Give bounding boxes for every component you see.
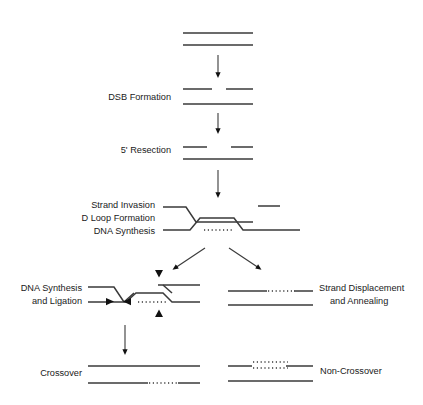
step-dsb-formation (183, 89, 253, 104)
label-crossover: Crossover (40, 368, 82, 378)
step-resection (183, 147, 253, 159)
new-dna-non-crossover (253, 362, 288, 368)
arrow-branch-left (175, 248, 205, 268)
resolution-arrow-top (155, 270, 163, 278)
figure-canvas: DSB Formation 5' Resection Strand Invasi… (0, 0, 423, 405)
resolution-arrow-left (106, 298, 114, 305)
label-strand-displacement-1: Strand Displacement (319, 283, 405, 293)
step-synthesis-ligation (88, 285, 200, 302)
arrow-branch-right (229, 248, 259, 268)
pathway-diagram: DSB Formation 5' Resection Strand Invasi… (0, 0, 423, 405)
label-dsb-formation: DSB Formation (108, 92, 171, 102)
label-synthesis-ligation-2: and Ligation (32, 296, 82, 306)
step-intact-duplex (183, 33, 253, 45)
label-strand-invasion: Strand Invasion (91, 200, 155, 210)
label-strand-displacement-2: and Annealing (330, 296, 388, 306)
step-crossover (88, 366, 200, 383)
label-non-crossover: Non-Crossover (320, 366, 382, 376)
label-dna-synthesis: DNA Synthesis (94, 226, 156, 236)
resolution-arrow-bottom (155, 310, 163, 318)
step-strand-invasion (163, 206, 300, 230)
step-non-crossover (228, 366, 313, 381)
step-strand-displacement (228, 291, 313, 305)
label-d-loop-formation: D Loop Formation (81, 213, 155, 223)
label-resection: 5' Resection (121, 145, 171, 155)
label-synthesis-ligation-1: DNA Synthesis (21, 283, 83, 293)
